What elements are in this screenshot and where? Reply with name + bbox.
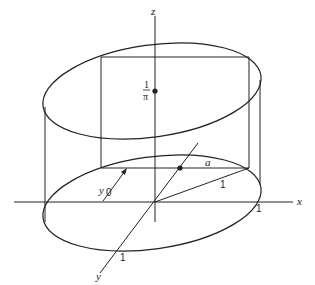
y0-subscript: 0: [106, 187, 112, 198]
height-dot: [152, 88, 157, 93]
height-numerator: 1: [144, 79, 149, 90]
y0-label: y: [98, 184, 104, 196]
x-axis-label: x: [296, 195, 302, 207]
height-denominator: π: [143, 91, 148, 102]
x-tick-label: 1: [256, 203, 262, 214]
y-axis-label: y: [95, 270, 101, 282]
bottom-ellipse: [37, 142, 268, 264]
cylinder-diagram: z x y 1 π y 0 a 1 1 1: [0, 0, 315, 285]
y0-arrowhead-icon: [121, 168, 127, 175]
z-axis-label: z: [150, 5, 156, 17]
half-chord-label: a: [205, 156, 211, 168]
radius-line: [155, 168, 249, 202]
y-tick-label: 1: [120, 252, 126, 263]
top-ellipse: [37, 30, 268, 152]
y-axis: [100, 143, 198, 273]
radius-label: 1: [220, 179, 226, 190]
chord-midpoint-dot: [177, 165, 182, 170]
